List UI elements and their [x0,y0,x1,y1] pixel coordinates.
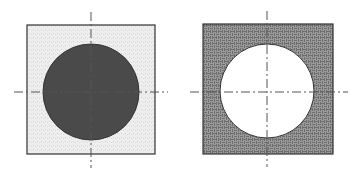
figure-canvas [0,0,361,178]
solid-circle-panel [14,12,168,168]
hole-panel [190,11,348,167]
